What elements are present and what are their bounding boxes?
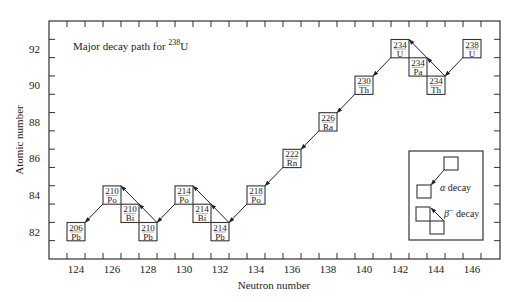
y-tick-label: 88	[29, 116, 41, 128]
beta-decay-arrow	[211, 204, 229, 222]
x-tick-label: 140	[356, 263, 373, 275]
element-symbol: Th	[359, 85, 369, 95]
chart-title-element: U	[180, 40, 188, 52]
nuclide-pb206: 206Pb	[67, 223, 85, 242]
nuclide-rn222: 222Rn	[283, 149, 301, 168]
alpha-decay-arrow	[229, 204, 247, 223]
legend-alpha-label: α decay	[440, 182, 471, 193]
nuclide-bi210: 210Bi	[121, 204, 139, 223]
element-symbol: Pa	[414, 67, 423, 77]
alpha-decay-arrow	[373, 58, 391, 77]
x-tick-label: 146	[464, 263, 481, 275]
element-symbol: U	[469, 49, 476, 59]
legend-alpha-parent-box	[444, 157, 458, 170]
element-symbol: Po	[251, 195, 261, 205]
decay-chart: 124126128130132134136138140142144146 828…	[0, 0, 516, 302]
alpha-decay-arrow	[157, 204, 175, 223]
x-axis-label: Neutron number	[238, 279, 311, 291]
x-tick-label: 132	[212, 263, 229, 275]
element-symbol: U	[397, 49, 404, 59]
x-tick-label: 142	[392, 263, 409, 275]
legend-beta-arrow	[431, 208, 444, 221]
y-tick-label: 86	[29, 152, 41, 164]
chart-title-mass: 238	[168, 38, 180, 47]
nuclide-po218: 218Po	[247, 186, 265, 205]
chart-title-prefix: Major decay path for	[73, 40, 168, 52]
element-symbol: Bi	[198, 213, 207, 223]
beta-decay-arrow	[409, 40, 427, 58]
element-symbol: Pb	[143, 232, 153, 242]
y-axis-label: Atomic number	[13, 105, 25, 175]
nuclide-po210: 210Po	[103, 186, 121, 205]
decay-arrows	[85, 40, 463, 223]
nuclide-pa234: 234Pa	[409, 58, 427, 77]
nuclide-bi214: 214Bi	[193, 204, 211, 223]
beta-decay-arrow	[193, 186, 211, 204]
alpha-decay-arrow	[301, 131, 319, 150]
x-tick-label: 138	[320, 263, 337, 275]
beta-decay-arrow	[121, 186, 139, 204]
alpha-decay-arrow	[337, 94, 355, 113]
nuclide-ra226: 226Ra	[319, 113, 337, 132]
element-symbol: Ra	[323, 122, 333, 132]
chart-title: Major decay path for 238U	[73, 38, 188, 52]
x-tick-label: 124	[68, 263, 85, 275]
x-tick-label: 126	[104, 263, 121, 275]
nuclide-po214: 214Po	[175, 186, 193, 205]
element-symbol: Th	[431, 85, 441, 95]
element-symbol: Pb	[71, 232, 81, 242]
nuclide-th234: 234Th	[427, 76, 445, 95]
nuclide-th230: 230Th	[355, 76, 373, 95]
legend-beta-parent-box	[430, 221, 444, 234]
y-tick-label: 90	[29, 79, 41, 91]
x-tick-label: 136	[284, 263, 301, 275]
x-tick-label: 144	[428, 263, 445, 275]
y-tick-label: 82	[29, 226, 40, 238]
legend-beta-daughter-box	[416, 207, 430, 221]
element-symbol: Po	[179, 195, 189, 205]
y-tick-label: 92	[29, 43, 40, 55]
nuclide-u238: 238U	[463, 40, 481, 59]
alpha-decay-arrow	[85, 204, 103, 223]
element-symbol: Po	[107, 195, 117, 205]
nuclide-pb210: 210Pb	[139, 223, 157, 242]
element-symbol: Pb	[215, 232, 225, 242]
alpha-decay-arrow	[265, 167, 283, 186]
y-tick-label: 84	[29, 189, 41, 201]
element-symbol: Bi	[126, 213, 135, 223]
beta-decay-arrow	[139, 204, 157, 222]
beta-decay-arrow	[427, 58, 445, 76]
alpha-decay-arrow	[445, 58, 463, 77]
legend: α decay β− decay	[409, 151, 483, 240]
x-tick-label: 128	[140, 263, 157, 275]
legend-alpha-daughter-box	[417, 185, 431, 198]
element-symbol: Rn	[287, 158, 298, 168]
nuclide-u234: 234U	[391, 40, 409, 59]
x-tick-label: 134	[248, 263, 265, 275]
nuclide-pb214: 214Pb	[211, 223, 229, 242]
legend-beta-label: β− decay	[443, 206, 479, 219]
x-tick-label: 130	[176, 263, 193, 275]
